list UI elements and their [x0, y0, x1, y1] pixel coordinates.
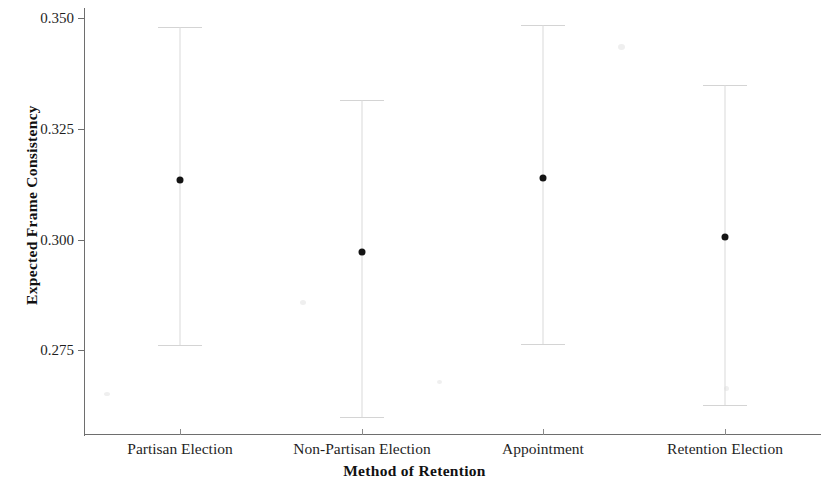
data-point-appointment [540, 175, 547, 182]
y-axis-line [84, 8, 85, 436]
error-bar-line [725, 85, 726, 405]
error-bar-lower-cap [340, 417, 384, 418]
y-axis-title: Expected Frame Consistency [23, 15, 41, 395]
x-tick-label-retention-election: Retention Election [667, 440, 783, 457]
error-bar-appointment [521, 25, 565, 345]
y-tick-mark [78, 129, 84, 130]
x-axis-line [84, 434, 821, 435]
error-bar-line [362, 100, 363, 417]
y-tick-mark [78, 240, 84, 241]
error-bar-non-partisan-election [340, 100, 384, 418]
error-bar-lower-cap [158, 345, 202, 346]
x-tick-mark [362, 429, 363, 435]
data-point-non-partisan-election [359, 249, 366, 256]
x-tick-label-non-partisan-election: Non-Partisan Election [293, 440, 430, 457]
error-bar-lower-cap [703, 405, 747, 406]
scan-speck [618, 44, 625, 50]
x-tick-mark [543, 429, 544, 435]
data-point-retention-election [722, 234, 729, 241]
error-bar-line [180, 27, 181, 345]
error-bar-retention-election [703, 85, 747, 406]
error-bar-lower-cap [521, 344, 565, 345]
scan-speck [300, 300, 306, 305]
y-tick-mark [78, 350, 84, 351]
x-tick-label-appointment: Appointment [502, 440, 584, 457]
scan-speck [437, 380, 442, 384]
x-tick-mark [180, 429, 181, 435]
chart-figure: 0.350 0.325 0.300 0.275 Partisan Electio… [0, 0, 829, 486]
data-point-partisan-election [177, 177, 184, 184]
error-bar-partisan-election [158, 27, 202, 346]
x-tick-label-partisan-election: Partisan Election [127, 440, 232, 457]
error-bar-line [543, 25, 544, 344]
x-tick-mark [725, 429, 726, 435]
x-axis-title: Method of Retention [0, 462, 829, 480]
y-tick-mark [78, 18, 84, 19]
scan-speck [104, 392, 110, 396]
